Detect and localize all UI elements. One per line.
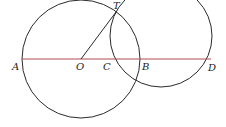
- diagram-svg: A O C B D T: [0, 0, 226, 127]
- segment-OT: [81, 12, 116, 59]
- geometry-diagram: A O C B D T: [0, 0, 226, 127]
- label-A: A: [11, 61, 19, 72]
- label-D: D: [207, 62, 216, 73]
- small-circle: [110, 0, 212, 87]
- label-B: B: [141, 61, 149, 72]
- label-C: C: [103, 61, 111, 72]
- label-O: O: [76, 61, 84, 72]
